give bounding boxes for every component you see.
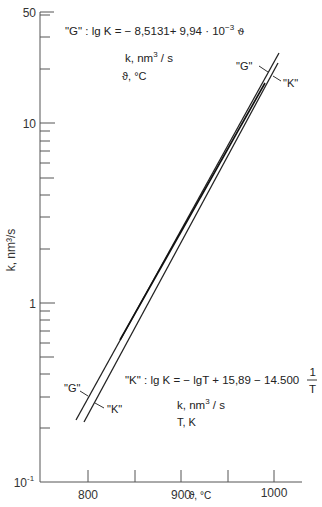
series-overlap — [120, 83, 265, 340]
y-axis-title: k, nm³/s — [4, 229, 18, 272]
leader-k-top — [273, 76, 281, 81]
y-label-1: 1 — [29, 297, 36, 311]
k-equation-denominator: T — [309, 383, 316, 395]
x-axis-title: ϑ, °C — [189, 490, 211, 501]
k-equation-numerator: 1 — [310, 366, 316, 378]
label-k-top: "K" — [283, 77, 298, 89]
g-units-k: k, nm3 / s — [125, 50, 173, 64]
label-g-top: "G" — [236, 60, 252, 72]
y-label-50: 50 — [23, 6, 37, 20]
y-label-0.1-exp: -1 — [27, 474, 35, 483]
label-g-bottom: "G" — [64, 382, 80, 394]
x-label-1000: 1000 — [261, 486, 288, 500]
k-units-t: T, K — [177, 416, 197, 428]
leader-g-bottom — [80, 391, 88, 396]
leader-k-bottom — [95, 403, 104, 408]
g-equation: "G" : lg K = − 8,5131+ 9,94 · 10−3ϑ — [65, 23, 244, 37]
k-units-k: k, nm3 / s — [177, 397, 225, 411]
x-label-800: 800 — [78, 488, 98, 502]
y-ticks — [40, 12, 55, 428]
k-equation: "K" : lg K = − lgT + 15,89 − 14.500 — [125, 374, 299, 386]
chart: 50 10 1 10 -1 k, nm³/s 800 900 1000 ϑ, °… — [0, 0, 322, 507]
label-k-bottom: "K" — [107, 403, 122, 415]
g-units-theta: ϑ, °C — [122, 70, 147, 82]
y-label-10: 10 — [23, 117, 37, 131]
x-ticks — [88, 470, 274, 482]
series-k-line — [84, 63, 278, 422]
y-label-0.1-base: 10 — [14, 476, 28, 490]
leader-g-top — [259, 66, 268, 72]
